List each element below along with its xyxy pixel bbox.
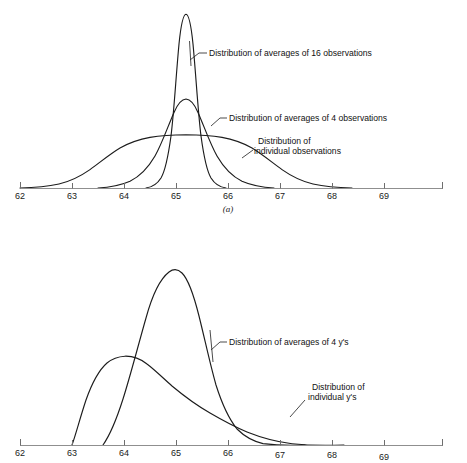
annotation-avg4ys: Distribution of averages of 4 y's	[210, 330, 349, 362]
annotation-individual-ys: Distribution of individual y's	[290, 382, 365, 417]
tick-label-a-4: 66	[223, 191, 233, 201]
tick-label-a-6: 68	[327, 191, 337, 201]
annotation-individual: Distribution of individual observations	[242, 136, 341, 158]
chart-panel-b: 62 63 64 65 66 67 68 69 Distribution of …	[0, 222, 467, 463]
curve-group-b	[72, 270, 344, 446]
tick-label-a-3: 65	[171, 191, 181, 201]
leader-tail-avg4ys	[210, 330, 213, 362]
annotation-avg4ys-line-0: Distribution of averages of 4 y's	[229, 337, 349, 347]
annotation-avg4ys-text: Distribution of averages of 4 y's	[229, 337, 349, 347]
tick-label-b-2: 64	[119, 448, 129, 458]
figure-root: 62 63 64 65 66 67 68 69 Distribution of …	[0, 0, 467, 463]
tick-label-a-5: 67	[275, 191, 285, 201]
leader-line-individual	[242, 150, 253, 158]
leader-line-avg16	[190, 53, 207, 60]
annotation-avg16-line-0: Distribution of averages of 16 observati…	[209, 48, 372, 58]
tick-label-b-3: 65	[171, 448, 181, 458]
panel-a-caption: (a)	[223, 204, 234, 214]
leader-tail-avg16	[190, 41, 192, 66]
tick-label-b-7: 69	[379, 452, 389, 462]
tick-label-b-5: 67	[275, 450, 285, 460]
tick-label-a-2: 64	[119, 191, 129, 201]
leader-line-avg4ys	[211, 342, 227, 350]
annotation-individual-line-1: individual observations	[254, 146, 341, 156]
curve-individual-ys	[72, 356, 344, 445]
annotation-individual-line-0: Distribution of	[258, 136, 311, 146]
tick-label-a-7: 69	[379, 191, 389, 201]
annotation-individual-ys-line-1: individual y's	[308, 392, 356, 402]
tick-label-a-1: 63	[67, 191, 77, 201]
annotation-avg4: Distribution of averages of 4 observatio…	[211, 113, 387, 126]
axis-tick-labels-b: 62 63 64 65 66 67 68 69	[15, 448, 389, 462]
leader-line-avg4	[211, 118, 227, 126]
annotation-individual-ys-line-0: Distribution of	[312, 382, 365, 392]
tick-label-b-4: 66	[223, 448, 233, 458]
tick-label-b-1: 63	[67, 448, 77, 458]
axis-a: 62 63 64 65 66 67 68 69	[15, 182, 443, 201]
leader-line-individual-ys	[290, 400, 305, 417]
tick-label-b-6: 68	[327, 450, 337, 460]
curve-group-a	[20, 14, 352, 188]
curve-averages-of-16	[146, 14, 226, 188]
tick-label-a-0: 62	[15, 191, 25, 201]
panel-a-svg: 62 63 64 65 66 67 68 69 Distribution of …	[0, 0, 467, 222]
annotation-avg4-line-0: Distribution of averages of 4 observatio…	[229, 113, 387, 123]
tick-label-b-0: 62	[15, 448, 25, 458]
axis-tick-labels-a: 62 63 64 65 66 67 68 69	[15, 191, 389, 201]
annotation-avg16: Distribution of averages of 16 observati…	[190, 41, 372, 66]
panel-b-svg: 62 63 64 65 66 67 68 69 Distribution of …	[0, 222, 467, 463]
axis-b: 62 63 64 65 66 67 68 69	[15, 439, 443, 462]
chart-panel-a: 62 63 64 65 66 67 68 69 Distribution of …	[0, 0, 467, 222]
